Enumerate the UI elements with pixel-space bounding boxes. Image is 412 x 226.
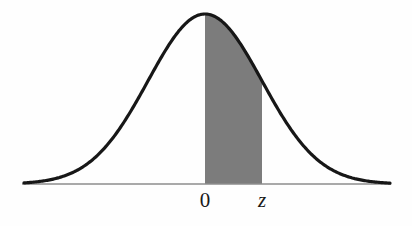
normal-distribution-figure: 0 z (0, 0, 412, 226)
axis-label-z: z (258, 190, 266, 211)
shaded-probability-area (205, 14, 262, 184)
axis-label-zero: 0 (200, 190, 211, 211)
